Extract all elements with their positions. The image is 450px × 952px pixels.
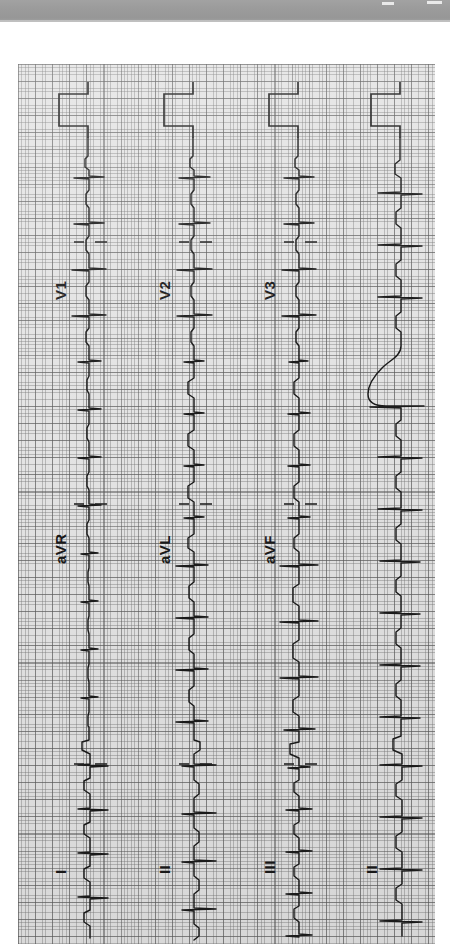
- lead-segment-ticks: [74, 242, 317, 764]
- ecg-trace-column-2: [176, 138, 216, 940]
- ecg-trace-column-1: [72, 138, 108, 938]
- band-artifact-left: [382, 2, 394, 5]
- calibration-pulse-col3: [269, 82, 298, 138]
- calibration-pulse-col4: [371, 82, 400, 138]
- ecg-trace-layer: [18, 64, 435, 944]
- ecg-paper: V4 V1 aVR I V5 V2 aVL II V6 V3 aVF III I…: [18, 64, 435, 944]
- ecg-trace-column-3: [280, 138, 318, 937]
- calibration-pulse-col2: [164, 82, 193, 138]
- calibration-pulse-col1: [59, 82, 88, 138]
- ecg-trace-rhythm-strip: [368, 138, 424, 936]
- band-artifact-right: [427, 1, 442, 4]
- scan-header-band: [0, 0, 450, 22]
